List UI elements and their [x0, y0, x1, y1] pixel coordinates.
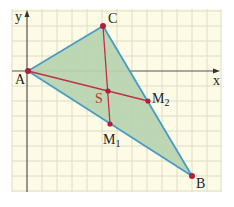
point-s — [105, 88, 110, 93]
label-m1-sub: 1 — [115, 138, 120, 149]
label-a: A — [15, 73, 25, 87]
point-m1 — [107, 121, 112, 126]
label-c: C — [108, 12, 117, 26]
label-m2-sub: 2 — [164, 97, 169, 108]
label-m1-main: M — [103, 132, 115, 147]
point-m2 — [145, 98, 150, 103]
label-m2: M2 — [152, 92, 169, 108]
point-a — [25, 68, 31, 74]
point-b — [189, 173, 195, 179]
label-m2-main: M — [152, 91, 164, 106]
label-b: B — [196, 177, 205, 191]
point-c — [100, 23, 106, 29]
x-axis-label: x — [213, 74, 220, 88]
y-axis-label: y — [15, 10, 22, 24]
label-m1: M1 — [103, 133, 120, 149]
label-s: S — [95, 92, 103, 106]
